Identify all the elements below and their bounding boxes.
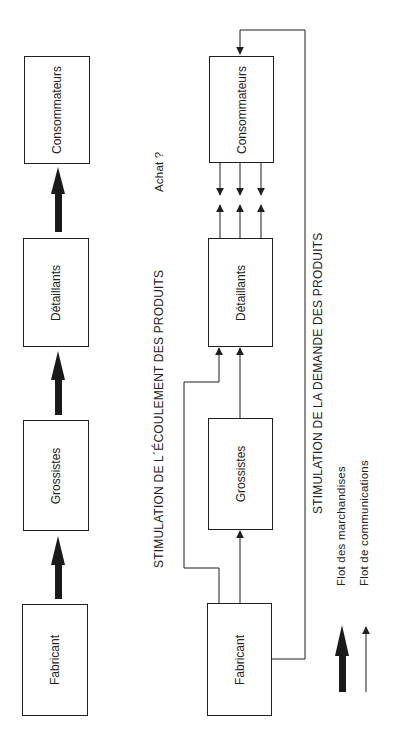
box-label: Détaillants: [234, 264, 248, 320]
box-label: Fabricant: [233, 634, 247, 684]
pull-stimulation-label: STIMULATION DE LA DEMANDE DES PRODUITS: [311, 233, 325, 514]
box-label: Consommateurs: [50, 66, 64, 154]
right-box-grossistes: Grossistes: [208, 418, 273, 530]
box-label: Grossistes: [49, 447, 63, 504]
thick-arrow: [51, 536, 65, 599]
legend-label-communications: Flot de communications: [358, 460, 370, 586]
thick-arrow: [51, 351, 65, 415]
box-label: Grossistes: [234, 446, 248, 503]
box-label: Consommateurs: [235, 65, 249, 153]
right-box-consommateurs: Consommateurs: [209, 56, 274, 163]
left-box-consommateurs: Consommateurs: [24, 56, 90, 164]
push-stimulation-label: STIMULATION DE L´ÉCOULEMENT DES PRODUITS: [152, 270, 166, 568]
right-box-fabricant: Fabricant: [207, 603, 272, 716]
legend-thick-arrow: [335, 625, 349, 692]
box-label: Fabricant: [48, 635, 62, 685]
left-box-fabricant: Fabricant: [22, 604, 88, 716]
box-label: Détaillants: [49, 264, 63, 320]
thick-arrow: [51, 167, 65, 232]
legend-label-merchandise: Flot des marchandises: [335, 466, 347, 586]
left-box-grossistes: Grossistes: [23, 420, 89, 531]
achat-label: Achat ?: [153, 152, 165, 192]
left-box-detaillants: Détaillants: [23, 238, 89, 347]
right-box-detaillants: Détaillants: [208, 238, 273, 347]
